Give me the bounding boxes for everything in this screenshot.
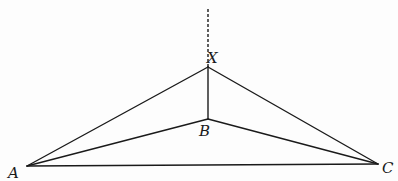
segment-xc xyxy=(208,67,378,164)
geometry-diagram: ABCX xyxy=(0,0,398,181)
segment-ax xyxy=(27,67,208,166)
point-label-x: X xyxy=(206,49,219,67)
point-label-b: B xyxy=(198,122,210,140)
segment-ac xyxy=(27,164,378,166)
segment-bc xyxy=(208,119,378,164)
segment-ab xyxy=(27,119,208,166)
point-label-c: C xyxy=(382,159,394,177)
point-label-a: A xyxy=(6,164,19,181)
figure-svg: ABCX xyxy=(0,0,398,181)
